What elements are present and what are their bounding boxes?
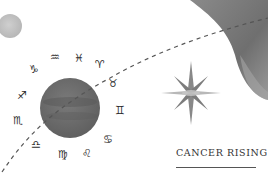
leo-icon: ♌ [82,148,92,159]
moon-icon [0,14,22,38]
cancer-icon: ♋ [103,134,113,145]
aries-icon: ♈ [95,59,105,70]
aquarius-icon: ♒ [50,52,60,63]
decorative-blob [190,0,268,100]
virgo-icon: ♍ [58,149,68,160]
capricorn-icon: ♑ [29,64,39,75]
scorpio-icon: ♏ [13,115,23,126]
libra-icon: ♎ [31,139,41,150]
title-underline [176,167,256,168]
gemini-icon: ♊ [115,105,125,116]
planet-icon [40,78,100,138]
pisces-icon: ♓ [74,53,84,64]
sagittarius-icon: ♐ [17,90,27,101]
star-icon [161,61,221,125]
title-text: CANCER RISING [176,147,268,158]
taurus-icon: ♉ [108,78,118,89]
